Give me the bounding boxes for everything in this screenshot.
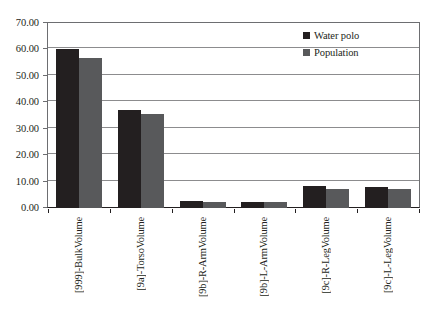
x-tick-mark: [357, 209, 358, 213]
x-tick-mark: [172, 209, 173, 213]
y-tick-label: 50.00: [16, 69, 39, 80]
x-tick-mark: [234, 209, 235, 213]
bar: [56, 49, 79, 208]
bar: [180, 201, 203, 208]
x-axis: [999]-BulkVolume[9a]-TorsoVolume[9b]-R-A…: [48, 209, 419, 324]
legend-label: Water polo: [314, 30, 359, 41]
x-tick-mark: [419, 209, 420, 213]
legend-swatch-icon: [303, 32, 310, 39]
y-axis: 0.0010.0020.0030.0040.0050.0060.0070.00: [0, 0, 47, 230]
legend-label: Population: [314, 47, 359, 58]
chart-legend: Water poloPopulation: [303, 27, 359, 61]
y-tick-label: 60.00: [16, 43, 39, 54]
x-tick-label: [9c]-L-LegVolume: [382, 217, 393, 293]
bar: [264, 202, 287, 208]
legend-swatch-icon: [303, 49, 310, 56]
bar: [388, 189, 411, 208]
bar: [203, 202, 226, 208]
bar-group: [56, 23, 102, 208]
y-tick-label: 70.00: [16, 17, 39, 28]
bar: [79, 58, 102, 208]
bar: [326, 189, 349, 208]
bar-group: [180, 23, 226, 208]
x-tick-mark: [48, 209, 49, 213]
x-tick-label: [9a]-TorsoVolume: [135, 217, 146, 290]
bar-group: [241, 23, 287, 208]
y-tick-label: 0.00: [21, 202, 39, 213]
bar-group: [118, 23, 164, 208]
x-tick-mark: [295, 209, 296, 213]
bar-chart: 0.0010.0020.0030.0040.0050.0060.0070.00 …: [0, 0, 435, 324]
bar: [118, 110, 141, 208]
x-tick-label: [9c]-R-LegVolume: [320, 217, 331, 294]
bar: [365, 187, 388, 208]
legend-item: Population: [303, 44, 359, 61]
y-tick-label: 20.00: [16, 149, 39, 160]
bar: [141, 114, 164, 208]
legend-item: Water polo: [303, 27, 359, 44]
bars-layer: [48, 23, 419, 208]
y-tick-label: 40.00: [16, 96, 39, 107]
y-tick-label: 30.00: [16, 122, 39, 133]
bar: [303, 186, 326, 208]
y-tick-label: 10.00: [16, 175, 39, 186]
bar-group: [365, 23, 411, 208]
x-tick-label: [9b]-R-ArmVolume: [197, 217, 208, 297]
x-tick-label: [9b]-L-ArmVolume: [258, 217, 269, 296]
x-tick-mark: [110, 209, 111, 213]
x-tick-label: [999]-BulkVolume: [73, 217, 84, 293]
bar: [241, 202, 264, 208]
